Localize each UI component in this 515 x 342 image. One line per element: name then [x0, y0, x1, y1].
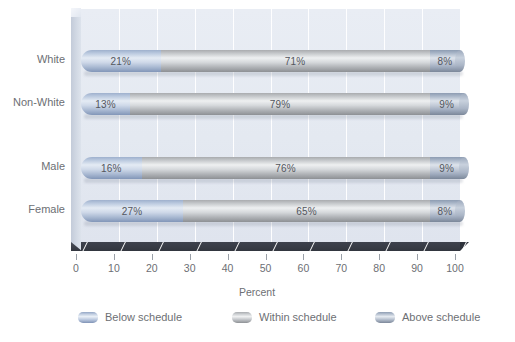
bar-value-label: 9%: [439, 99, 454, 110]
x-axis-title: Percent: [197, 286, 317, 298]
legend-item-within[interactable]: Within schedule: [232, 311, 337, 323]
x-tick-mark: [303, 254, 304, 260]
bar-value-label: 13%: [95, 99, 116, 110]
bar-segment-below[interactable]: 13%: [81, 93, 130, 115]
legend-swatch-below: [78, 312, 98, 323]
bar-white[interactable]: 21%71%8%: [81, 50, 460, 72]
x-tick-mark: [455, 254, 456, 260]
x-tick-label: 100: [435, 262, 475, 274]
legend-swatch-within: [232, 312, 252, 323]
x-tick-mark: [417, 254, 418, 260]
x-tick-mark: [341, 254, 342, 260]
x-tick-label: 0: [56, 262, 96, 274]
x-tick-label: 70: [321, 262, 361, 274]
plot-floor: [81, 242, 460, 251]
x-tick-label: 80: [359, 262, 399, 274]
x-tick-label: 50: [246, 262, 286, 274]
bar-value-label: 16%: [101, 163, 122, 174]
plot-canvas: 21%71%8%13%79%9%16%76%9%27%65%8%: [81, 8, 460, 243]
x-tick-label: 90: [397, 262, 437, 274]
bar-value-label: 79%: [270, 99, 291, 110]
bar-segment-within[interactable]: 71%: [161, 50, 430, 72]
plot-area-3d: 21%71%8%13%79%9%16%76%9%27%65%8%: [71, 8, 460, 251]
bar-end-cap: [455, 200, 465, 222]
bar-segment-within[interactable]: 65%: [183, 200, 429, 222]
x-tick-mark: [379, 254, 380, 260]
legend-item-above[interactable]: Above schedule: [375, 311, 480, 323]
bar-segment-below[interactable]: 27%: [81, 200, 183, 222]
legend-item-below[interactable]: Below schedule: [78, 311, 182, 323]
x-tick-mark: [114, 254, 115, 260]
x-tick-mark: [228, 254, 229, 260]
bar-segment-above[interactable]: 8%: [430, 50, 460, 72]
category-label-female: Female: [0, 203, 65, 215]
legend-swatch-above: [375, 312, 395, 323]
x-tick-mark: [152, 254, 153, 260]
bar-value-label: 8%: [437, 206, 452, 217]
bar-end-cap: [459, 93, 469, 115]
bar-segment-within[interactable]: 76%: [142, 157, 430, 179]
bar-end-cap: [459, 157, 469, 179]
bar-value-label: 8%: [437, 56, 452, 67]
x-tick-mark: [190, 254, 191, 260]
legend-label: Within schedule: [259, 311, 337, 323]
x-tick-label: 60: [283, 262, 323, 274]
bar-male[interactable]: 16%76%9%: [81, 157, 464, 179]
legend-label: Below schedule: [105, 311, 182, 323]
bar-female[interactable]: 27%65%8%: [81, 200, 460, 222]
bar-value-label: 76%: [275, 163, 296, 174]
x-tick-label: 10: [94, 262, 134, 274]
category-label-male: Male: [0, 160, 65, 172]
plot-left-wall: [71, 17, 81, 251]
bar-value-label: 21%: [110, 56, 131, 67]
bar-segment-above[interactable]: 9%: [430, 93, 464, 115]
x-tick-label: 30: [170, 262, 210, 274]
x-tick-mark: [266, 254, 267, 260]
bar-end-cap: [455, 50, 465, 72]
bar-segment-below[interactable]: 21%: [81, 50, 161, 72]
stacked-bar-chart: WhiteNon-WhiteMaleFemale 21%71%8%13%79%9…: [0, 0, 515, 342]
bar-value-label: 27%: [122, 206, 143, 217]
bar-segment-below[interactable]: 16%: [81, 157, 142, 179]
category-label-white: White: [0, 53, 65, 65]
bar-value-label: 9%: [439, 163, 454, 174]
category-label-non-white: Non-White: [0, 96, 65, 108]
legend-label: Above schedule: [402, 311, 480, 323]
x-tick-label: 40: [208, 262, 248, 274]
bar-segment-above[interactable]: 9%: [430, 157, 464, 179]
chart-legend: Below scheduleWithin scheduleAbove sched…: [0, 311, 515, 333]
bar-value-label: 65%: [296, 206, 317, 217]
x-tick-label: 20: [132, 262, 172, 274]
bar-segment-within[interactable]: 79%: [130, 93, 429, 115]
bar-non-white[interactable]: 13%79%9%: [81, 93, 464, 115]
x-tick-mark: [76, 254, 77, 260]
bar-value-label: 71%: [285, 56, 306, 67]
bar-segment-above[interactable]: 8%: [430, 200, 460, 222]
